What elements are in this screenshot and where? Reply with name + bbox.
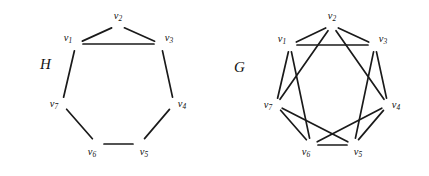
vertex-label-subscript: 1 [68, 36, 72, 45]
vertex-label-subscript: 6 [306, 150, 310, 159]
vertex-label-subscript: 3 [382, 37, 387, 46]
vertex-label-subscript: 4 [182, 102, 186, 111]
vertex-label-subscript: 2 [118, 14, 122, 23]
vertex-label-subscript: 5 [358, 150, 362, 159]
vertex-label-subscript: 1 [282, 37, 286, 46]
graph-edge-v4-v5 [145, 109, 170, 138]
graph-edge-v1-v2 [82, 28, 111, 41]
graph-edge-v6-v7 [67, 109, 93, 138]
graph-edge-v7-v1 [64, 51, 75, 97]
graph-edge-v3-v4 [162, 51, 172, 97]
vertex-label-subscript: 3 [168, 36, 173, 45]
graph-edge-v5-v7 [282, 108, 348, 142]
graph-g: v1v2v3v4v5v6v7G [234, 10, 405, 160]
graph-name-label-h: H [39, 56, 52, 72]
vertex-label-subscript: 4 [396, 103, 400, 112]
vertex-label-subscript: 7 [54, 102, 58, 111]
graph-figure: v1v2v3v4v5v6v7Hv1v2v3v4v5v6v7G [0, 0, 429, 176]
graph-g-edges [278, 28, 387, 145]
graph-canvas: v1v2v3v4v5v6v7Hv1v2v3v4v5v6v7G [0, 0, 429, 176]
graph-edge-v2-v3 [124, 28, 154, 41]
vertex-label-subscript: 2 [332, 14, 336, 23]
graph-name-label-g: G [234, 59, 245, 75]
graph-h-edges [64, 28, 173, 144]
graph-h: v1v2v3v4v5v6v7H [39, 10, 191, 160]
vertex-label-subscript: 6 [92, 150, 96, 159]
vertex-label-subscript: 5 [144, 150, 148, 159]
vertex-label-subscript: 7 [268, 103, 272, 112]
graph-edge-v7-v1 [278, 52, 289, 98]
